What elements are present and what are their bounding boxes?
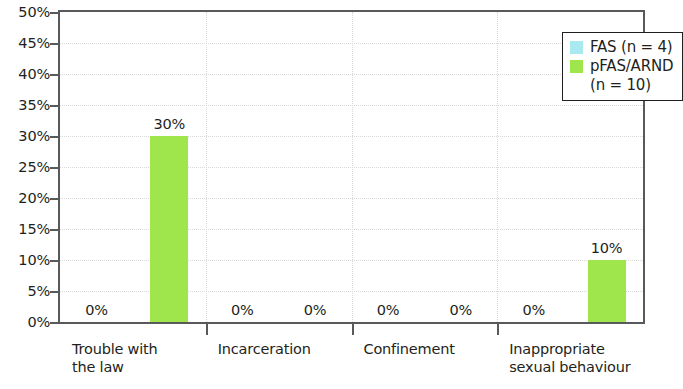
- x-axis-category-label-line: Inappropriate: [509, 341, 604, 357]
- x-axis-group-separator: [497, 324, 499, 335]
- y-axis-tick-label: 35%: [4, 98, 50, 113]
- x-axis-category-label-line: sexual behaviour: [509, 359, 630, 375]
- x-axis-group-separator: [352, 324, 354, 335]
- y-axis-tick-label: 45%: [4, 36, 50, 51]
- bar-value-label: 0%: [431, 303, 491, 318]
- x-axis-category-label-line: Confinement: [364, 341, 455, 357]
- y-axis-tick-mark: [50, 260, 58, 262]
- bar-value-label: 0%: [66, 303, 126, 318]
- legend-entry-pfas-arnd: pFAS/ARND(n = 10): [570, 57, 673, 94]
- legend: FAS (n = 4) pFAS/ARND(n = 10): [562, 32, 683, 101]
- y-axis-tick-label: 50%: [4, 5, 50, 20]
- bar-value-label: 0%: [212, 303, 272, 318]
- y-axis-tick-label: 0%: [4, 315, 50, 330]
- legend-swatch-fas: [570, 41, 583, 54]
- legend-swatch-pfas-arnd: [570, 60, 583, 73]
- y-axis-tick-mark: [50, 74, 58, 76]
- x-axis-category-label: Confinement: [352, 340, 498, 358]
- legend-entry-fas: FAS (n = 4): [570, 38, 673, 56]
- bar-value-label: 0%: [285, 303, 345, 318]
- bar-value-label: 0%: [504, 303, 564, 318]
- y-axis-tick-label: 30%: [4, 129, 50, 144]
- legend-label-pfas-arnd: pFAS/ARND(n = 10): [590, 57, 673, 94]
- bar-value-label: 10%: [577, 241, 637, 256]
- plot-area: 0%30%0%0%0%0%0%10% FAS (n = 4) pFAS/ARND…: [58, 10, 645, 324]
- y-axis-tick-mark: [50, 198, 58, 200]
- x-axis-category-label-line: Incarceration: [218, 341, 311, 357]
- y-axis-tick-label: 15%: [4, 222, 50, 237]
- x-axis-category-label: Inappropriatesexual behaviour: [497, 340, 643, 376]
- y-axis-tick-mark: [50, 229, 58, 231]
- y-axis-tick-label: 5%: [4, 284, 50, 299]
- y-axis-tick-mark: [50, 167, 58, 169]
- x-axis-category-label: Incarceration: [206, 340, 352, 358]
- y-axis-tick-mark: [50, 322, 58, 324]
- y-axis-tick-label: 40%: [4, 67, 50, 82]
- x-axis-group-separator: [206, 324, 208, 335]
- legend-label-pfas-arnd-line1: pFAS/ARND: [590, 57, 673, 75]
- category-divider: [206, 12, 207, 322]
- legend-label-fas: FAS (n = 4): [590, 38, 672, 56]
- category-divider: [497, 12, 498, 322]
- bar-value-label: 0%: [358, 303, 418, 318]
- y-axis-tick-mark: [50, 43, 58, 45]
- category-divider: [352, 12, 353, 322]
- x-axis-category-label-line: the law: [72, 359, 124, 375]
- bar-value-label: 30%: [139, 117, 199, 132]
- y-axis-tick-label: 10%: [4, 253, 50, 268]
- bar: [150, 136, 188, 322]
- bar: [588, 260, 626, 322]
- y-axis-tick-mark: [50, 136, 58, 138]
- y-axis-tick-mark: [50, 12, 58, 14]
- y-axis-tick-mark: [50, 105, 58, 107]
- y-axis-tick-label: 25%: [4, 160, 50, 175]
- x-axis-category-label: Trouble withthe law: [60, 340, 206, 376]
- y-axis-tick-mark: [50, 291, 58, 293]
- y-axis-tick-label: 20%: [4, 191, 50, 206]
- x-axis-category-label-line: Trouble with: [72, 341, 158, 357]
- legend-label-pfas-arnd-line2: (n = 10): [590, 76, 651, 94]
